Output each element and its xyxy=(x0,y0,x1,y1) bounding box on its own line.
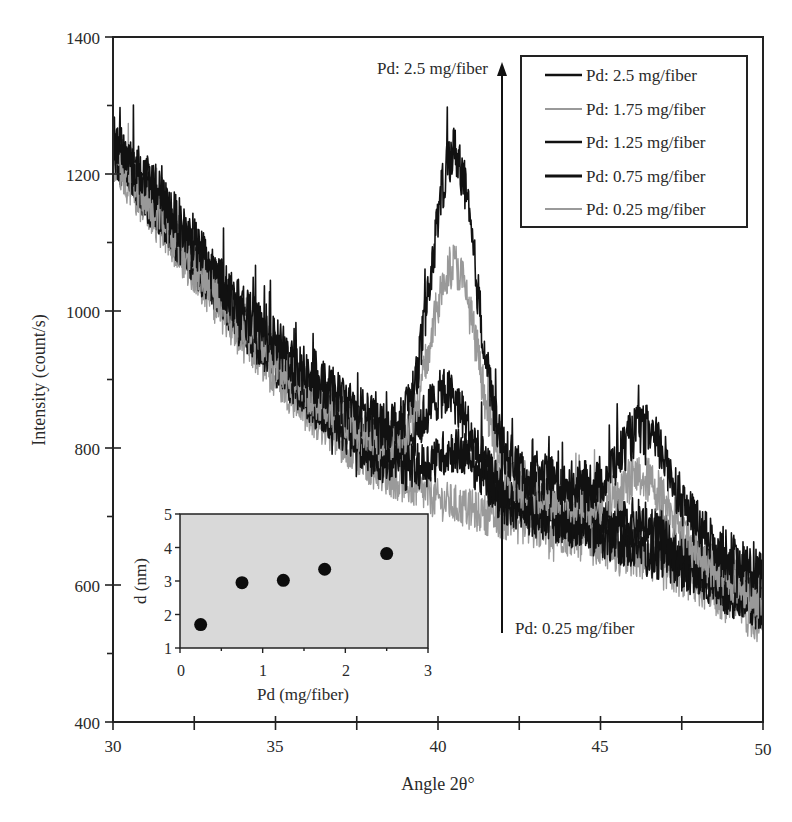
arrow-up-icon xyxy=(497,62,507,76)
annotation-top-label: Pd: 2.5 mg/fiber xyxy=(377,59,488,78)
y-tick-label-600: 600 xyxy=(75,577,101,596)
legend: Pd: 2.5 mg/fiber Pd: 1.75 mg/fiber Pd: 1… xyxy=(521,56,747,227)
x-tick-label-35: 35 xyxy=(267,737,284,756)
inset-y-tick-3: 3 xyxy=(164,573,172,590)
inset-y-tick-2: 2 xyxy=(164,607,172,624)
x-tick-label-40: 40 xyxy=(430,737,447,756)
legend-label: Pd: 0.75 mg/fiber xyxy=(586,167,706,186)
legend-label: Pd: 1.75 mg/fiber xyxy=(586,100,706,119)
y-tick-label-1000: 1000 xyxy=(66,303,100,322)
inset-x-tick-3: 3 xyxy=(424,662,432,679)
y-axis-title: Intensity (count/s) xyxy=(29,314,50,445)
inset-x-tick-2: 2 xyxy=(342,662,350,679)
xrd-chart: 1400 1200 1000 800 600 400 30 35 40 45 5… xyxy=(0,0,792,822)
inset-data-point xyxy=(277,574,290,587)
y-tick-label-1200: 1200 xyxy=(66,166,100,185)
x-tick-label-30: 30 xyxy=(105,737,122,756)
inset-data-point xyxy=(236,576,249,589)
y-tick-label-1400: 1400 xyxy=(66,29,100,48)
inset-y-tick-1: 1 xyxy=(164,640,172,657)
y-tick-label-800: 800 xyxy=(75,440,101,459)
inset-y-tick-4: 4 xyxy=(164,540,172,557)
inset-data-point xyxy=(380,547,393,560)
inset-chart: 5 4 3 2 1 0 1 2 3 Pd (mg/fiber) d (nm) xyxy=(131,506,432,704)
inset-x-axis-title: Pd (mg/fiber) xyxy=(257,685,349,704)
x-tick-label-45: 45 xyxy=(592,737,609,756)
inset-data-point xyxy=(318,563,331,576)
y-tick-label-400: 400 xyxy=(75,714,101,733)
inset-plot-area xyxy=(180,514,428,648)
legend-label: Pd: 1.25 mg/fiber xyxy=(586,133,706,152)
x-axis-title: Angle 2θ° xyxy=(401,774,474,794)
legend-label: Pd: 0.25 mg/fiber xyxy=(586,200,706,219)
inset-y-tick-5: 5 xyxy=(164,506,172,523)
inset-data-point xyxy=(194,618,207,631)
legend-label: Pd: 2.5 mg/fiber xyxy=(586,66,697,85)
annotation-bottom-label: Pd: 0.25 mg/fiber xyxy=(515,619,635,638)
inset-y-axis-title: d (nm) xyxy=(131,558,150,604)
x-tick-label-50: 50 xyxy=(755,740,772,759)
inset-x-tick-0: 0 xyxy=(177,662,185,679)
inset-x-tick-1: 1 xyxy=(259,662,267,679)
